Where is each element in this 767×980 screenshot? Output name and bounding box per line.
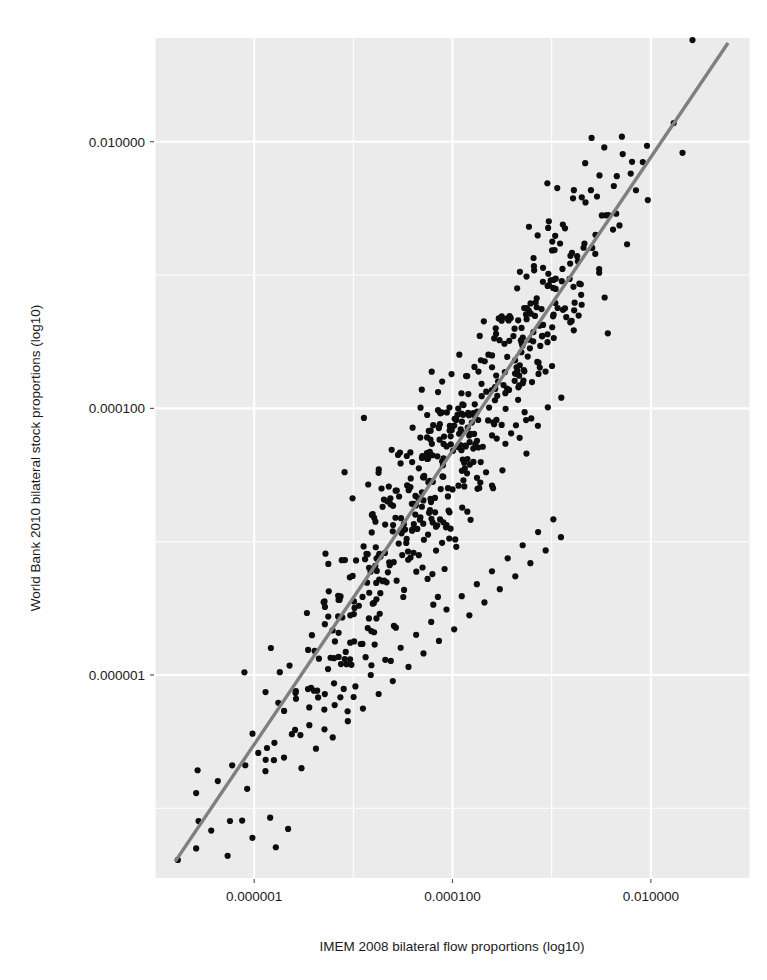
data-point bbox=[424, 412, 430, 418]
data-point bbox=[508, 430, 514, 436]
data-point bbox=[510, 333, 516, 339]
data-point bbox=[395, 452, 401, 458]
data-point bbox=[517, 435, 523, 441]
data-point bbox=[378, 485, 384, 491]
data-point bbox=[581, 240, 587, 246]
data-point bbox=[356, 603, 362, 609]
data-point bbox=[345, 718, 351, 724]
data-point bbox=[443, 524, 449, 530]
data-point bbox=[520, 542, 526, 548]
data-point bbox=[330, 734, 336, 740]
data-point bbox=[341, 469, 347, 475]
data-point bbox=[528, 415, 534, 421]
data-point bbox=[527, 300, 533, 306]
data-point bbox=[562, 305, 568, 311]
data-point bbox=[464, 373, 470, 379]
data-point bbox=[305, 686, 311, 692]
data-point bbox=[545, 283, 551, 289]
data-point bbox=[427, 449, 433, 455]
data-point bbox=[452, 536, 458, 542]
data-point bbox=[563, 314, 569, 320]
data-point bbox=[343, 649, 349, 655]
y-tick-label: 0.010000 bbox=[89, 135, 145, 150]
data-point bbox=[582, 199, 588, 205]
data-point bbox=[264, 745, 270, 751]
data-point bbox=[361, 543, 367, 549]
data-point bbox=[614, 173, 620, 179]
data-point bbox=[576, 312, 582, 318]
data-point bbox=[545, 404, 551, 410]
data-point bbox=[293, 696, 299, 702]
data-point bbox=[337, 593, 343, 599]
data-point bbox=[406, 487, 412, 493]
data-point bbox=[537, 343, 543, 349]
data-point bbox=[325, 614, 331, 620]
data-point bbox=[560, 221, 566, 227]
data-point bbox=[499, 313, 505, 319]
data-point bbox=[503, 406, 509, 412]
data-point bbox=[578, 292, 584, 298]
data-point bbox=[542, 368, 548, 374]
data-point bbox=[225, 853, 231, 859]
data-point bbox=[381, 496, 387, 502]
data-point bbox=[489, 568, 495, 574]
data-point bbox=[262, 768, 268, 774]
data-point bbox=[459, 504, 465, 510]
data-point bbox=[371, 629, 377, 635]
data-point bbox=[599, 212, 605, 218]
data-point bbox=[459, 419, 465, 425]
data-point bbox=[417, 435, 423, 441]
data-point bbox=[351, 694, 357, 700]
data-point bbox=[419, 504, 425, 510]
data-point bbox=[448, 433, 454, 439]
data-point bbox=[476, 485, 482, 491]
data-point bbox=[281, 708, 287, 714]
data-point bbox=[341, 686, 347, 692]
data-point bbox=[513, 422, 519, 428]
data-point bbox=[479, 393, 485, 399]
data-point bbox=[390, 522, 396, 528]
data-point bbox=[467, 431, 473, 437]
data-point bbox=[535, 371, 541, 377]
data-point bbox=[505, 555, 511, 561]
data-point bbox=[325, 561, 331, 567]
y-tick-label: 0.000001 bbox=[89, 668, 145, 683]
data-point bbox=[629, 159, 635, 165]
data-point bbox=[241, 669, 247, 675]
data-point bbox=[481, 599, 487, 605]
data-point bbox=[195, 767, 201, 773]
data-point bbox=[571, 187, 577, 193]
data-point bbox=[417, 405, 423, 411]
data-point bbox=[368, 672, 374, 678]
data-point bbox=[467, 439, 473, 445]
data-point bbox=[645, 197, 651, 203]
data-point bbox=[511, 326, 517, 332]
data-point bbox=[331, 680, 337, 686]
data-point bbox=[193, 845, 199, 851]
data-point bbox=[512, 378, 518, 384]
data-point bbox=[478, 381, 484, 387]
data-point bbox=[399, 552, 405, 558]
data-point bbox=[506, 313, 512, 319]
data-point bbox=[429, 369, 435, 375]
data-point bbox=[393, 625, 399, 631]
data-point bbox=[229, 762, 235, 768]
data-point bbox=[550, 277, 556, 283]
data-point bbox=[491, 421, 497, 427]
data-point bbox=[271, 740, 277, 746]
data-point bbox=[555, 305, 561, 311]
data-point bbox=[527, 345, 533, 351]
data-point bbox=[439, 540, 445, 546]
data-point bbox=[436, 638, 442, 644]
data-point bbox=[558, 534, 564, 540]
data-point bbox=[525, 353, 531, 359]
data-point bbox=[540, 279, 546, 285]
data-point bbox=[389, 447, 395, 453]
data-point bbox=[325, 666, 331, 672]
data-point bbox=[453, 544, 459, 550]
data-point bbox=[436, 424, 442, 430]
data-point bbox=[385, 569, 391, 575]
data-point bbox=[539, 333, 545, 339]
data-point bbox=[394, 578, 400, 584]
data-point bbox=[424, 576, 430, 582]
